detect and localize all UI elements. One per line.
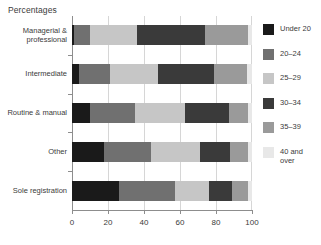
bar-row[interactable]	[72, 142, 252, 162]
legend-item[interactable]: 40 and over	[263, 147, 303, 166]
bar-segment[interactable]	[137, 25, 205, 45]
x-tick-label: 40	[140, 218, 149, 227]
bar-segment[interactable]	[72, 181, 119, 201]
chart-title: Percentages	[8, 5, 57, 15]
legend-swatch-icon	[263, 24, 274, 35]
legend-item[interactable]: Under 20	[263, 24, 311, 35]
x-tick-label: 20	[104, 218, 113, 227]
bar-segment[interactable]	[205, 25, 248, 45]
y-tick	[68, 55, 72, 56]
bar-segment[interactable]	[158, 64, 214, 84]
x-tick-label: 80	[212, 218, 221, 227]
legend-item[interactable]: 30–34	[263, 98, 301, 109]
bar-row[interactable]	[72, 181, 252, 201]
category-label: Intermediate	[25, 69, 67, 79]
bar-row[interactable]	[72, 64, 252, 84]
x-axis-line	[72, 210, 253, 211]
legend-label: 20–24	[280, 49, 301, 59]
legend-item[interactable]: 35–39	[263, 122, 301, 133]
bar-segment[interactable]	[90, 25, 137, 45]
bar-segment[interactable]	[110, 64, 159, 84]
legend-swatch-icon	[263, 98, 274, 109]
y-tick	[68, 171, 72, 172]
bar-row[interactable]	[72, 103, 252, 123]
x-tick	[72, 210, 73, 214]
bar-segment[interactable]	[90, 103, 135, 123]
bar-segment[interactable]	[214, 64, 246, 84]
legend-label: 25–29	[280, 73, 301, 83]
bar-segment[interactable]	[72, 142, 104, 162]
category-label: Routine & manual	[7, 108, 67, 118]
bar-segment[interactable]	[248, 25, 252, 45]
x-tick	[108, 210, 109, 214]
bar-segment[interactable]	[119, 181, 175, 201]
bar-segment[interactable]	[232, 181, 248, 201]
bar-segment[interactable]	[248, 181, 252, 201]
bar-segment[interactable]	[79, 64, 110, 84]
bar-segment[interactable]	[74, 25, 90, 45]
y-tick	[68, 94, 72, 95]
legend-item[interactable]: 25–29	[263, 73, 301, 84]
y-tick	[68, 132, 72, 133]
plot-area	[72, 16, 252, 210]
bar-segment[interactable]	[248, 142, 252, 162]
bar-segment[interactable]	[175, 181, 209, 201]
x-tick-label: 100	[245, 218, 258, 227]
bar-segment[interactable]	[209, 181, 232, 201]
x-tick	[180, 210, 181, 214]
legend-label: 35–39	[280, 122, 301, 132]
legend-swatch-icon	[263, 122, 274, 133]
legend-swatch-icon	[263, 73, 274, 84]
bar-row[interactable]	[72, 25, 252, 45]
bar-segment[interactable]	[200, 142, 231, 162]
x-tick	[216, 210, 217, 214]
x-tick-label: 0	[70, 218, 74, 227]
legend-label: 30–34	[280, 98, 301, 108]
bar-segment[interactable]	[72, 103, 90, 123]
category-label: Other	[48, 147, 67, 157]
x-tick-label: 60	[176, 218, 185, 227]
bar-segment[interactable]	[72, 64, 79, 84]
x-tick	[144, 210, 145, 214]
bar-segment[interactable]	[230, 142, 248, 162]
legend-label: Under 20	[280, 24, 311, 34]
legend-item[interactable]: 20–24	[263, 49, 301, 60]
category-label: Managerial & professional	[23, 26, 67, 45]
bar-segment[interactable]	[104, 142, 151, 162]
bar-segment[interactable]	[248, 103, 252, 123]
stacked-bar-chart: Percentages 020406080100 Managerial & pr…	[0, 0, 321, 245]
bar-segment[interactable]	[247, 64, 252, 84]
legend-swatch-icon	[263, 147, 274, 158]
category-label: Sole registration	[13, 186, 67, 196]
bar-segment[interactable]	[185, 103, 228, 123]
bar-segment[interactable]	[135, 103, 185, 123]
bar-segment[interactable]	[229, 103, 249, 123]
bar-segment[interactable]	[151, 142, 200, 162]
legend-label: 40 and over	[280, 147, 303, 166]
legend-swatch-icon	[263, 49, 274, 60]
x-tick	[252, 210, 253, 214]
